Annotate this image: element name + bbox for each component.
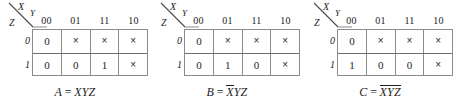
kmap-row: 0 × × × [338, 30, 452, 53]
kmap-caption-b: B=XYZ [152, 85, 302, 100]
kmap-cell: 0 [185, 30, 214, 53]
kmap-cell: 1 [214, 54, 243, 75]
column-header: 11 [395, 14, 424, 28]
column-header: 01 [61, 14, 90, 28]
kmap-cell: × [424, 54, 452, 75]
kmap-cell: × [91, 30, 120, 53]
column-header: 00 [32, 14, 61, 28]
kmap-grid-a: 0 × × × 0 0 1 × [32, 29, 148, 76]
corner-label-x: X [323, 2, 329, 12]
kmap-caption-c: C=XYZ [305, 85, 455, 100]
kmap-c: X Y Z 00 01 11 10 0 1 0 × × × 1 0 0 [305, 0, 455, 108]
kmap-row: 0 × × × [185, 30, 299, 53]
kmap-cell: 0 [367, 54, 396, 75]
kmap-cell: 0 [243, 54, 272, 75]
corner-label-z: Z [9, 18, 15, 28]
caption-equals: = [369, 85, 377, 99]
column-header: 10 [271, 14, 300, 28]
kmap-cell: 0 [62, 54, 91, 75]
column-header: 10 [119, 14, 148, 28]
kmap-cell: × [119, 30, 147, 53]
row-header: 0 [323, 29, 335, 52]
kmap-b: X Y Z 00 01 11 10 0 1 0 × × × 0 1 0 [152, 0, 302, 108]
row-header: 1 [170, 53, 182, 76]
kmap-cell: × [243, 30, 272, 53]
corner-label-z: Z [314, 18, 320, 28]
corner-label-z: Z [161, 18, 167, 28]
column-header: 00 [337, 14, 366, 28]
kmap-caption-a: A=XYZ [0, 85, 150, 100]
kmap-cell: 1 [338, 54, 367, 75]
corner-label-x: X [170, 2, 176, 12]
kmap-cell: 0 [338, 30, 367, 53]
kmap-cell: × [396, 30, 425, 53]
kmap-cell: × [271, 54, 299, 75]
kmap-row: 0 0 1 × [33, 53, 147, 75]
column-header: 11 [90, 14, 119, 28]
column-header: 01 [213, 14, 242, 28]
caption-overbar-term: X [226, 85, 234, 99]
column-headers-a: 00 01 11 10 [32, 14, 148, 28]
column-header: 11 [242, 14, 271, 28]
kmap-cell: 0 [33, 54, 62, 75]
kmap-cell: × [62, 30, 91, 53]
caption-plain-term: YZ [234, 85, 248, 99]
column-headers-b: 00 01 11 10 [184, 14, 300, 28]
kmap-cell: 0 [33, 30, 62, 53]
row-headers-b: 0 1 [170, 29, 182, 76]
caption-output: B [207, 85, 215, 99]
column-header: 10 [424, 14, 453, 28]
row-header: 0 [170, 29, 182, 52]
row-headers-c: 0 1 [323, 29, 335, 76]
kmap-row: 0 1 0 × [185, 53, 299, 75]
row-headers-a: 0 1 [18, 29, 30, 76]
kmap-cell: 0 [396, 54, 425, 75]
row-header: 0 [18, 29, 30, 52]
caption-equals: = [216, 85, 224, 99]
kmap-cell: × [271, 30, 299, 53]
kmap-figure: X Y Z 00 01 11 10 0 1 0 × × × 0 0 1 [0, 0, 464, 108]
kmap-row: 1 0 0 × [338, 53, 452, 75]
row-header: 1 [18, 53, 30, 76]
caption-equals: = [64, 85, 72, 99]
kmap-cell: × [424, 30, 452, 53]
row-header: 1 [323, 53, 335, 76]
kmap-cell: × [367, 30, 396, 53]
kmap-row: 0 × × × [33, 30, 147, 53]
kmap-a: X Y Z 00 01 11 10 0 1 0 × × × 0 0 1 [0, 0, 150, 108]
kmap-grid-c: 0 × × × 1 0 0 × [337, 29, 453, 76]
column-header: 01 [366, 14, 395, 28]
corner-label-x: X [18, 2, 24, 12]
caption-output: C [359, 85, 367, 99]
kmap-cell: 0 [185, 54, 214, 75]
kmap-cell: × [119, 54, 147, 75]
kmap-cell: × [214, 30, 243, 53]
kmap-grid-b: 0 × × × 0 1 0 × [184, 29, 300, 76]
caption-overbar-term: XYZ [380, 85, 401, 99]
caption-expression: XYZ [74, 85, 95, 99]
column-headers-c: 00 01 11 10 [337, 14, 453, 28]
caption-output: A [55, 85, 63, 99]
kmap-cell: 1 [91, 54, 120, 75]
column-header: 00 [184, 14, 213, 28]
